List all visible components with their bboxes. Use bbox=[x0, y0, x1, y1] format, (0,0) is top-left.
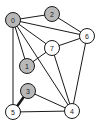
node-circle-0 bbox=[6, 13, 21, 28]
graph-edge-5-4 bbox=[13, 111, 72, 112]
node-circle-2 bbox=[45, 7, 60, 22]
node-circle-1 bbox=[20, 59, 35, 74]
node-circle-5 bbox=[6, 105, 21, 120]
node-circle-4 bbox=[65, 104, 80, 119]
graph-canvas: 01234567 bbox=[0, 0, 100, 127]
graph-edge-6-4 bbox=[72, 36, 87, 111]
graph-node-3: 3 bbox=[21, 84, 36, 99]
graph-node-6: 6 bbox=[80, 29, 95, 44]
graph-node-2: 2 bbox=[45, 7, 60, 22]
graph-edge-7-4 bbox=[52, 48, 72, 111]
graph-node-4: 4 bbox=[65, 104, 80, 119]
node-circle-3 bbox=[21, 84, 36, 99]
graph-node-7: 7 bbox=[45, 41, 60, 56]
node-circle-7 bbox=[45, 41, 60, 56]
graph-node-1: 1 bbox=[20, 59, 35, 74]
graph-node-5: 5 bbox=[6, 105, 21, 120]
graph-node-0: 0 bbox=[6, 13, 21, 28]
graph-diagram: 01234567 bbox=[0, 0, 100, 127]
node-circle-6 bbox=[80, 29, 95, 44]
